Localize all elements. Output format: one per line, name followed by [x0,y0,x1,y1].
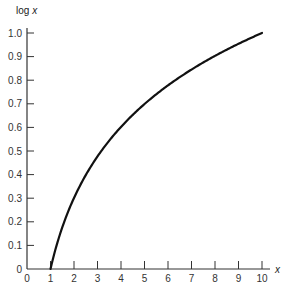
x-tick-label: 3 [95,273,101,284]
x-tick-label: 9 [236,273,242,284]
y-tick-label: 0.6 [8,122,22,133]
x-tick-label: 10 [256,273,268,284]
x-tick-label: 7 [189,273,195,284]
y-tick-label: 0.9 [8,51,22,62]
x-axis: 012345678910 [24,261,270,284]
x-tick-label: 8 [212,273,218,284]
y-tick-label: 0.2 [8,216,22,227]
x-axis-title: x [274,264,281,275]
x-tick-label: 0 [24,273,30,284]
x-tick-label: 4 [118,273,124,284]
x-tick-label: 2 [71,273,77,284]
x-tick-label: 1 [48,273,54,284]
y-tick-label: 0.3 [8,193,22,204]
y-tick-label: 0.4 [8,169,22,180]
y-axis: 00.10.20.30.40.50.60.70.80.91.0 [8,28,34,275]
log-curve [51,33,263,269]
log-x-chart: 00.10.20.30.40.50.60.70.80.91.0 01234567… [0,0,285,293]
y-tick-label: 0 [16,264,22,275]
y-axis-title: log x [16,5,38,16]
y-tick-label: 0.1 [8,240,22,251]
y-tick-label: 1.0 [8,28,22,39]
y-tick-label: 0.5 [8,146,22,157]
x-tick-label: 6 [165,273,171,284]
y-tick-label: 0.7 [8,98,22,109]
y-tick-label: 0.8 [8,75,22,86]
x-tick-label: 5 [142,273,148,284]
